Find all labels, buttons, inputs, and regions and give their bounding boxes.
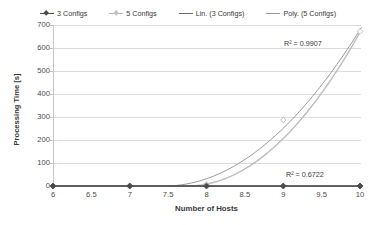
x-axis-title: Number of Hosts [53, 204, 360, 213]
trendline-poly-5-configs [164, 27, 361, 186]
r2-annotation-poly: R² = 0.9907 [284, 39, 322, 48]
x-tick-label: 8.5 [230, 191, 260, 199]
x-tick-label: 9.5 [307, 191, 337, 199]
x-tick-label: 9 [268, 191, 298, 199]
x-tick-label: 6.5 [76, 191, 106, 199]
x-tick-label: 7.5 [153, 191, 183, 199]
data-point-3-configs [127, 183, 133, 189]
data-point-3-configs [357, 183, 363, 189]
data-point-3-configs [280, 183, 286, 189]
r2-annotation-lin: R² = 0.6722 [286, 170, 324, 179]
data-point-5-configs [280, 117, 286, 123]
x-tick-label: 7 [115, 191, 145, 199]
chart-container: 3 Configs 5 Configs Lin. (3 Configs) Pol… [0, 0, 376, 225]
x-tick-label: 8 [192, 191, 222, 199]
x-tick-label: 10 [345, 191, 375, 199]
x-tick-label: 6 [38, 191, 68, 199]
series-line-5-configs [53, 32, 360, 186]
data-point-3-configs [50, 183, 56, 189]
